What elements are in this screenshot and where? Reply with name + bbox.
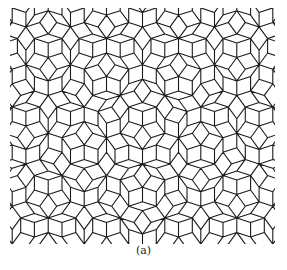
rhombus-edges	[10, 8, 275, 244]
tiling-graphic	[10, 8, 275, 244]
figure: (a)	[0, 0, 287, 270]
figure-caption: (a)	[0, 244, 287, 257]
penrose-tiling-diagram	[10, 8, 275, 244]
